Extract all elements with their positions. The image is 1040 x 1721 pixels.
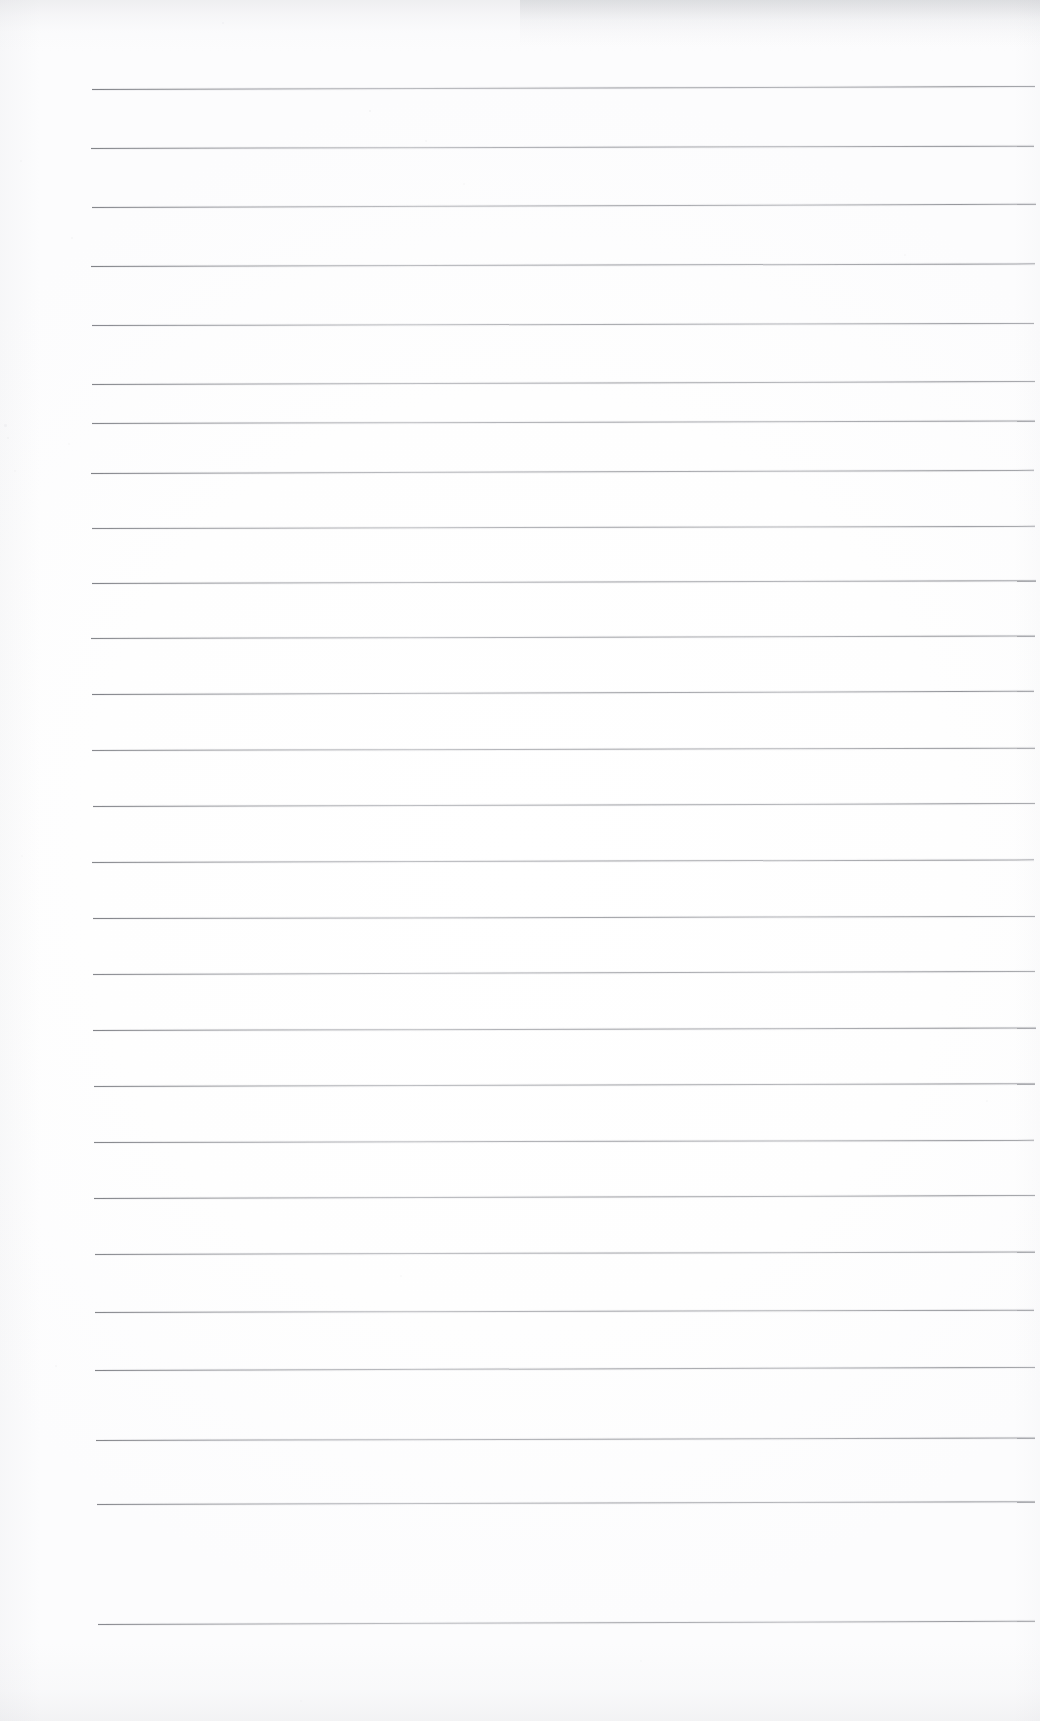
writing-area[interactable] [92,60,1037,1640]
scanned-page [0,0,1040,1721]
